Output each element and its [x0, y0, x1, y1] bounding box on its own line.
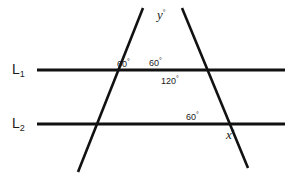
label-line-L1-subscript: 1 — [20, 69, 25, 79]
degree-icon: ° — [163, 9, 166, 16]
label-line-L2-name: L — [12, 115, 20, 131]
label-line-L2: L2 — [12, 116, 25, 133]
degree-icon: ° — [159, 57, 162, 64]
angle-label-interior: 120° — [161, 75, 179, 86]
unknown-angle-label-y: y° — [157, 8, 166, 21]
geometry-diagram-canvas: L1 L2 60° 60° 120° 60° y° x° — [0, 0, 294, 179]
angle-interior-value: 120 — [161, 76, 176, 86]
left-transversal-line — [78, 8, 143, 172]
label-line-L2-subscript: 2 — [20, 123, 25, 133]
geometry-figure — [0, 0, 294, 179]
degree-icon: ° — [196, 111, 199, 118]
angle-upper-left-value: 60 — [117, 59, 127, 69]
right-transversal-line — [182, 8, 248, 168]
angle-lower-value: 60 — [186, 112, 196, 122]
angle-label-upper-left: 60° — [117, 58, 130, 69]
label-line-L1-name: L — [12, 61, 20, 77]
angle-upper-right-value: 60 — [149, 58, 159, 68]
angle-label-lower: 60° — [186, 111, 199, 122]
unknown-angle-label-x: x° — [226, 128, 235, 141]
degree-icon: ° — [127, 58, 130, 65]
angle-label-upper-right: 60° — [149, 57, 162, 68]
label-line-L1: L1 — [12, 62, 25, 79]
degree-icon: ° — [232, 129, 235, 136]
degree-icon: ° — [176, 75, 179, 82]
